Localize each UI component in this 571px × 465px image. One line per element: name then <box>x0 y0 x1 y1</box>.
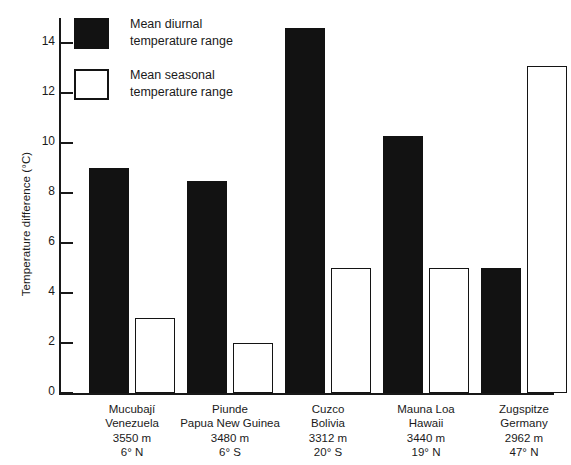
legend-swatch-seasonal-icon <box>74 69 109 100</box>
y-axis-line <box>59 18 61 395</box>
bar-diurnal[interactable] <box>89 168 129 393</box>
legend-label: Mean seasonaltemperature range <box>130 67 233 101</box>
bar-seasonal[interactable] <box>429 268 469 393</box>
legend-label-line1: Mean diurnal <box>130 16 233 33</box>
y-axis-tick-label: 6 <box>48 234 55 248</box>
bar-diurnal[interactable] <box>285 28 325 393</box>
legend-swatch-diurnal-icon <box>74 18 109 49</box>
bar-diurnal[interactable] <box>481 268 521 393</box>
y-axis-tick: 2 <box>61 342 73 344</box>
bar-seasonal[interactable] <box>331 268 371 393</box>
y-axis-title: Temperature difference (°C) <box>20 124 32 324</box>
y-axis-tick-label: 4 <box>48 284 55 298</box>
site-latitude: 47° N <box>449 445 571 459</box>
y-axis-tick-label: 8 <box>48 184 55 198</box>
y-axis-tick: 0 <box>61 392 73 394</box>
legend-label-line2: temperature range <box>130 33 233 50</box>
y-axis-tick-label: 0 <box>48 384 55 398</box>
y-axis-tick-label: 10 <box>42 134 55 148</box>
site-name: Zugspitze <box>449 402 571 416</box>
y-axis-tick-label: 2 <box>48 334 55 348</box>
bar-group <box>377 18 475 393</box>
y-axis-tick: 14 <box>61 42 73 44</box>
x-axis-line <box>59 393 554 395</box>
y-axis-tick: 8 <box>61 192 73 194</box>
legend-label-line2: temperature range <box>130 84 233 101</box>
y-axis-tick: 12 <box>61 92 73 94</box>
y-axis-tick-label: 12 <box>42 84 55 98</box>
bar-seasonal[interactable] <box>527 66 567 394</box>
bar-seasonal[interactable] <box>135 318 175 393</box>
bar-group <box>279 18 377 393</box>
legend-label: Mean diurnaltemperature range <box>130 16 233 50</box>
legend-label-line1: Mean seasonal <box>130 67 233 84</box>
y-axis-tick: 4 <box>61 292 73 294</box>
y-axis-tick: 6 <box>61 242 73 244</box>
bar-seasonal[interactable] <box>233 343 273 393</box>
y-axis-tick-label: 14 <box>42 34 55 48</box>
bar-diurnal[interactable] <box>383 136 423 394</box>
y-axis-tick: 10 <box>61 142 73 144</box>
site-country: Germany <box>449 416 571 430</box>
site-elevation: 2962 m <box>449 431 571 445</box>
x-axis-group-label: ZugspitzeGermany2962 m47° N <box>449 402 571 460</box>
bar-group <box>475 18 571 393</box>
bar-diurnal[interactable] <box>187 181 227 394</box>
